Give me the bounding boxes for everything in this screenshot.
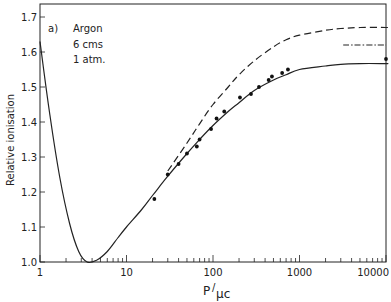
annotation-gas: Argon [73, 23, 103, 34]
y-tick-label: 1.2 [21, 187, 37, 198]
curve-solid [40, 42, 388, 263]
x-tick-label: 1 [37, 267, 43, 278]
y-tick-label: 1.5 [21, 82, 37, 93]
x-tick-label: 1000 [287, 267, 312, 278]
x-tick-label: 100 [203, 267, 222, 278]
x-axis-ticks: 110100100010000 [37, 255, 389, 278]
data-point [215, 117, 219, 121]
data-point [280, 71, 284, 75]
data-point [198, 138, 202, 142]
y-tick-label: 1.0 [21, 257, 37, 268]
data-point [270, 75, 274, 79]
data-point [185, 152, 189, 156]
data-point [257, 85, 261, 89]
data-point [195, 145, 199, 149]
x-tick-label: 10 [120, 267, 133, 278]
curve-dashed [168, 27, 388, 171]
y-tick-label: 1.4 [21, 117, 37, 128]
panel-label: a) [48, 23, 58, 34]
y-tick-label: 1.6 [21, 47, 37, 58]
data-point [286, 68, 290, 72]
data-point [238, 96, 242, 100]
data-point [384, 57, 388, 61]
x-axis-label: P / µc [203, 282, 230, 301]
data-point [249, 92, 253, 96]
data-point [152, 197, 156, 201]
svg-text:µc: µc [216, 287, 230, 301]
x-tick-label: 10000 [357, 267, 389, 278]
data-point [166, 173, 170, 177]
y-tick-label: 1.1 [21, 222, 37, 233]
data-point [222, 110, 226, 114]
data-point [209, 127, 213, 131]
annotation-speed: 6 cms [73, 39, 103, 50]
data-point [267, 78, 271, 82]
data-point [177, 162, 181, 166]
y-axis-label: Relative ionisation [5, 94, 16, 186]
svg-text:P: P [203, 284, 210, 298]
y-tick-label: 1.7 [21, 12, 37, 23]
y-tick-label: 1.3 [21, 152, 37, 163]
ionisation-chart: 110100100010000 1.01.11.21.31.41.51.61.7… [0, 0, 391, 302]
annotation-pressure: 1 atm. [73, 54, 106, 65]
